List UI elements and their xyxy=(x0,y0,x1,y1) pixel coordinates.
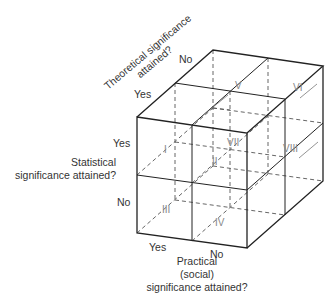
practical-yes-label: Yes xyxy=(149,241,166,253)
cell-label-VI: VI xyxy=(293,82,302,93)
theoretical-yes-label: Yes xyxy=(134,88,151,100)
cell-label-III: III xyxy=(162,204,170,215)
practical-axis-title-line2: (social) xyxy=(180,268,214,280)
cell-label-I: I xyxy=(164,144,167,155)
cell-label-IV: IV xyxy=(215,217,225,228)
cell-label-V: V xyxy=(235,80,242,91)
cell-label-VIII: VIII xyxy=(283,143,298,154)
statistical-yes-label: Yes xyxy=(113,137,130,149)
statistical-axis-title-line2: significance attained? xyxy=(15,169,116,181)
statistical-axis-title-line1: Statistical xyxy=(71,156,116,168)
cell-label-II: II xyxy=(212,156,218,167)
cube-diagram: I II III IV V VI VII VIII Theoretical si… xyxy=(0,0,336,306)
cell-label-VII: VII xyxy=(227,137,239,148)
practical-axis-title-line3: significance attained? xyxy=(147,281,248,293)
practical-axis-title-line1: Practical xyxy=(177,255,217,267)
theoretical-no-label: No xyxy=(179,53,193,65)
statistical-no-label: No xyxy=(117,196,131,208)
